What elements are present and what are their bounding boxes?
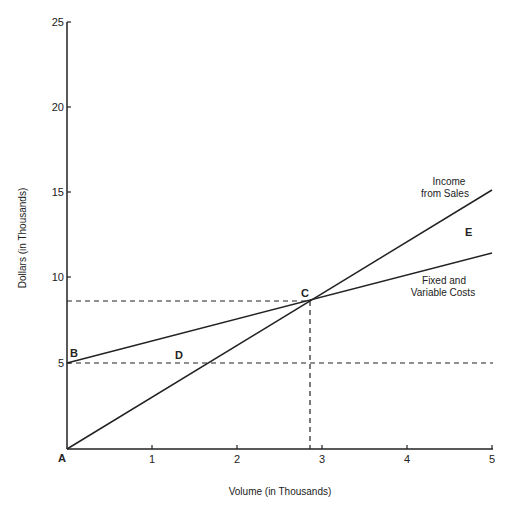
y-tick-label-25: 25 xyxy=(52,16,64,28)
x-tick-label-4: 4 xyxy=(404,453,410,465)
x-tick-label-5: 5 xyxy=(489,453,495,465)
income-series-label-line1: Income xyxy=(433,176,466,187)
costs-series-label-line1: Fixed and xyxy=(422,275,466,286)
income-series-label-line2: from Sales xyxy=(421,188,469,199)
x-tick-label-3: 3 xyxy=(319,453,325,465)
y-axis-title: Dollars (in Thousands) xyxy=(17,188,28,288)
x-axis-title: Volume (in Thousands) xyxy=(229,486,332,497)
point-label-a: A xyxy=(58,452,66,464)
point-label-d: D xyxy=(175,349,183,361)
income-from-sales-line xyxy=(67,190,492,449)
y-tick-label-10: 10 xyxy=(52,271,64,283)
x-tick-label-1: 1 xyxy=(149,453,155,465)
costs-series-label-line2: Variable Costs xyxy=(411,287,475,298)
point-label-c: C xyxy=(301,287,309,299)
point-label-e: E xyxy=(465,226,472,238)
fixed-variable-costs-line xyxy=(67,253,492,363)
break-even-chart: 25 20 15 10 5 1 2 3 4 5 Volume (in Thous… xyxy=(0,0,516,514)
y-tick-label-20: 20 xyxy=(52,101,64,113)
y-tick-label-5: 5 xyxy=(58,357,64,369)
point-label-b: B xyxy=(70,347,78,359)
y-tick-label-15: 15 xyxy=(52,186,64,198)
x-tick-label-2: 2 xyxy=(234,453,240,465)
